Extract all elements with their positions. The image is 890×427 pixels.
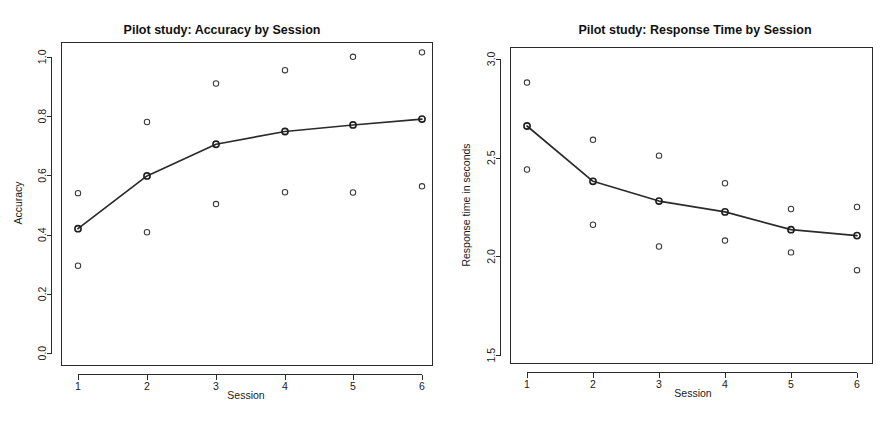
raw-data-point <box>656 244 661 249</box>
raw-data-point <box>656 153 661 158</box>
raw-data-point <box>722 181 727 186</box>
raw-data-point <box>590 222 595 227</box>
x-axis-title: Session <box>674 387 712 399</box>
mean-trend-line <box>78 119 422 229</box>
raw-data-point <box>524 167 529 172</box>
mean-trend-line <box>527 126 857 236</box>
raw-data-point <box>854 267 859 272</box>
raw-data-point <box>75 190 80 195</box>
x-axis-tick-label: 3 <box>213 380 219 392</box>
chart-title: Pilot study: Response Time by Session <box>578 23 811 37</box>
raw-data-point <box>524 80 529 85</box>
raw-data-point <box>419 50 424 55</box>
x-axis-tick-label: 5 <box>788 378 794 390</box>
chart-panel-response-time: Pilot study: Response Time by Session 1.… <box>445 0 890 427</box>
y-axis-tick-label: 2.0 <box>485 249 497 264</box>
y-axis-tick-label: 0.0 <box>36 346 48 361</box>
raw-data-point <box>213 81 218 86</box>
raw-data-point <box>144 230 149 235</box>
raw-data-point <box>788 250 793 255</box>
raw-data-point <box>282 190 287 195</box>
y-axis-tick-label: 1.5 <box>485 348 497 363</box>
chart-panel-accuracy: Pilot study: Accuracy by Session 0.00.20… <box>0 0 445 427</box>
raw-data-point <box>213 201 218 206</box>
plot-page: Pilot study: Accuracy by Session 0.00.20… <box>0 0 890 427</box>
y-axis-tick-label: 3.0 <box>485 51 497 66</box>
y-axis-tick-label: 1.0 <box>36 49 48 64</box>
accuracy-chart-svg: Pilot study: Accuracy by Session 0.00.20… <box>0 0 445 427</box>
y-axis-tick-label: 0.6 <box>36 168 48 183</box>
x-axis-tick-label: 4 <box>282 380 288 392</box>
raw-data-point <box>419 184 424 189</box>
x-axis-tick-label: 4 <box>722 378 728 390</box>
y-axis-title: Response time in seconds <box>460 143 472 266</box>
x-axis-tick-label: 2 <box>144 380 150 392</box>
x-axis-title: Session <box>227 389 265 401</box>
chart-title: Pilot study: Accuracy by Session <box>124 23 321 37</box>
x-axis-tick-label: 6 <box>419 380 425 392</box>
plot-frame <box>511 48 873 364</box>
x-axis-tick-label: 1 <box>524 378 530 390</box>
raw-data-point <box>590 137 595 142</box>
y-axis-tick-label: 0.2 <box>36 286 48 301</box>
response-time-chart-svg: Pilot study: Response Time by Session 1.… <box>445 0 890 427</box>
y-axis-tick-label: 0.4 <box>36 227 48 242</box>
raw-data-point <box>75 263 80 268</box>
raw-data-point <box>350 190 355 195</box>
raw-data-point <box>144 119 149 124</box>
x-axis-tick-label: 3 <box>656 378 662 390</box>
y-axis-tick-label: 2.5 <box>485 150 497 165</box>
raw-data-point <box>282 67 287 72</box>
y-axis-tick-label: 0.8 <box>36 109 48 124</box>
raw-data-point <box>350 54 355 59</box>
x-axis-tick-label: 6 <box>854 378 860 390</box>
raw-data-point <box>722 238 727 243</box>
x-axis-tick-label: 5 <box>350 380 356 392</box>
y-axis-title: Accuracy <box>12 181 24 225</box>
x-axis-tick-label: 2 <box>590 378 596 390</box>
x-axis-tick-label: 1 <box>75 380 81 392</box>
raw-data-point <box>854 204 859 209</box>
response-time-plot-area: 1.52.02.53.0123456 <box>485 48 873 391</box>
accuracy-plot-area: 0.00.20.40.60.81.0123456 <box>36 43 433 393</box>
raw-data-point <box>788 206 793 211</box>
plot-frame <box>62 43 433 366</box>
